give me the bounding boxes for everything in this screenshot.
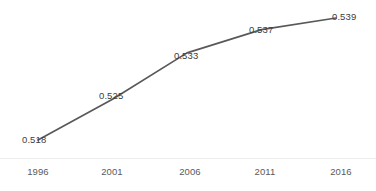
x-tick-2001: 2001 xyxy=(92,166,132,177)
data-label-2011: 0.537 xyxy=(249,24,273,35)
x-tick-2016: 2016 xyxy=(321,166,361,177)
chart-plot-area xyxy=(0,0,376,191)
x-axis-line xyxy=(0,158,376,159)
x-tick-1996: 1996 xyxy=(18,166,58,177)
data-label-2016: 0.539 xyxy=(332,11,356,22)
x-tick-2011: 2011 xyxy=(245,166,285,177)
data-series-line xyxy=(38,18,336,140)
data-label-2006: 0.533 xyxy=(174,50,198,61)
data-label-2001: 0.525 xyxy=(99,90,123,101)
x-tick-2006: 2006 xyxy=(170,166,210,177)
data-label-1996: 0.518 xyxy=(22,134,46,145)
line-chart: 0.518 0.525 0.533 0.537 0.539 1996 2001 … xyxy=(0,0,376,191)
